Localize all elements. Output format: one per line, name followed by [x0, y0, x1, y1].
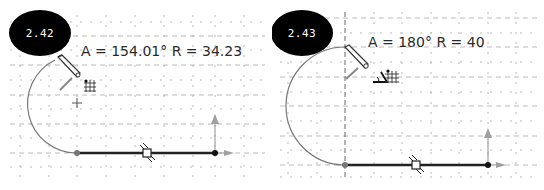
origin-axis-arrows: [484, 128, 506, 168]
line-end-point[interactable]: [485, 162, 491, 168]
pencil-icon: [345, 45, 368, 68]
figure-2-43: 2.43 A = 180° R = 40: [272, 0, 544, 190]
angle-radius-readout: A = 154.01° R = 34.23: [81, 43, 242, 59]
grid-snap-icon: [84, 79, 96, 92]
sketch-canvas-right: 2.43 A = 180° R = 40: [272, 0, 544, 190]
arc-center-crosshair-icon: [72, 98, 82, 108]
angle-radius-readout: A = 180° R = 40: [368, 34, 485, 50]
line-start-point[interactable]: [74, 150, 80, 156]
line-end-point[interactable]: [212, 150, 218, 156]
line-start-point[interactable]: [342, 162, 348, 168]
figure-number: 2.42: [26, 27, 55, 40]
sketch-arc[interactable]: [28, 60, 77, 153]
origin-axis-arrows: [211, 114, 234, 156]
sketch-canvas-left: 2.42 A = 154.01° R = 34.23: [0, 0, 272, 190]
figure-number: 2.43: [288, 27, 317, 40]
figure-2-42: 2.42 A = 154.01° R = 34.23: [0, 0, 272, 190]
